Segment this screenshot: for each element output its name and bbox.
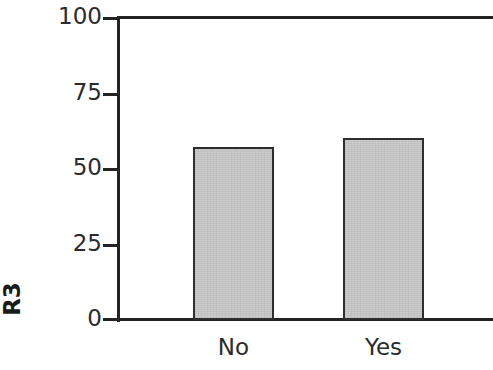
- y-tick-label-75: 75: [73, 81, 102, 104]
- y-axis-line: [117, 17, 120, 322]
- bar-no[interactable]: [193, 147, 274, 320]
- bar-chart: R3 100 75 50 25 0 No Yes: [0, 0, 493, 370]
- x-category-label-yes: Yes: [343, 334, 424, 360]
- bar-yes[interactable]: [343, 138, 424, 320]
- plot-frame-top-line: [117, 16, 493, 19]
- y-tick-label-50: 50: [73, 156, 102, 179]
- y-tick-label-0: 0: [87, 307, 102, 330]
- x-category-label-no: No: [193, 334, 274, 360]
- y-tick-label-25: 25: [73, 232, 102, 255]
- y-tick-label-100: 100: [58, 5, 102, 28]
- x-axis-line: [117, 318, 493, 321]
- y-axis-title: R3: [0, 273, 25, 325]
